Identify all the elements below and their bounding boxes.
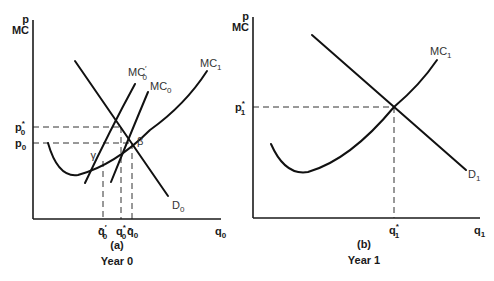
mc-curve-mc1 (48, 71, 207, 175)
curve-label: D0 (172, 199, 185, 214)
x-tick-label: q̄′0 (98, 223, 108, 241)
mc-curve-mc0-prime (85, 84, 135, 183)
curve-label: MC′0 (128, 64, 148, 82)
guide-lines (253, 107, 394, 218)
equilibrium-point-label: β (137, 135, 143, 147)
diagram-canvas: D0MC′0MC0MC1pMCq0p*0p0q̄′0q*0q̄0γβ(a)Yea… (0, 0, 494, 281)
curves: D1MC1 (271, 35, 481, 183)
y-axis-label-mc: MC (232, 21, 249, 33)
panel-a: D0MC′0MC0MC1pMCq0p*0p0q̄′0q*0q̄0γβ(a)Yea… (12, 13, 227, 267)
panel-caption-letter: (a) (110, 239, 124, 251)
y-axis-label-mc: MC (12, 24, 29, 36)
y-tick-label: p0 (15, 137, 27, 152)
panel-b: D1MC1pMCq1p*1q*1(b)Year 1 (232, 10, 486, 266)
curve-label: MC1 (430, 45, 452, 60)
curve-label: MC0 (150, 80, 172, 95)
economics-diagram: D0MC′0MC0MC1pMCq0p*0p0q̄′0q*0q̄0γβ(a)Yea… (0, 0, 494, 281)
y-tick-label: p*0 (15, 119, 26, 137)
x-tick-label: q*1 (389, 222, 400, 240)
x-axis-label: q0 (215, 225, 227, 240)
panel-caption-year: Year 1 (348, 254, 380, 266)
panel-caption-letter: (b) (357, 238, 371, 250)
panel-caption-year: Year 0 (101, 255, 133, 267)
mc-curve-mc1 (271, 60, 437, 172)
x-axis-label: q1 (474, 224, 486, 239)
x-tick-label: q̄0 (127, 225, 139, 240)
equilibrium-point-label: γ (91, 149, 97, 161)
curves: D0MC′0MC0MC1 (48, 57, 222, 214)
y-tick-label: p*1 (235, 99, 246, 117)
curve-label: MC1 (200, 57, 222, 72)
curve-label: D1 (468, 168, 481, 183)
